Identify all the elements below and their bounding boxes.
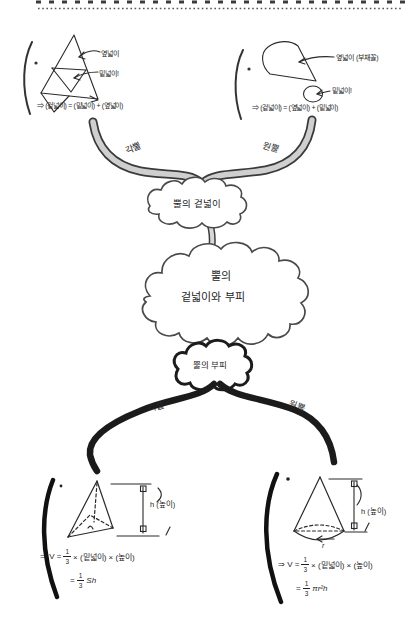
cloud-surface-label: 뿔의 겉넓이 — [173, 198, 221, 209]
pyramid-volume-formula-line2: = 13 Sh — [70, 572, 96, 590]
handwritten-mindmap-page: 옆넓이 밑넓이! 옆넓이 (부채꼴) 밑넓이! 각뿔 원뿔 뿔의 겉넓이 뿔의 … — [0, 0, 419, 625]
formula-prefix: = — [296, 584, 301, 593]
base-area-label: 밑넓이! — [99, 69, 119, 78]
lateral-area-label: 옆넓이 (부채꼴) — [336, 53, 379, 62]
bullet-dot — [60, 485, 63, 488]
left-paren-mark-bold — [44, 480, 57, 597]
lower-branches — [90, 384, 334, 471]
bullet-dot — [247, 67, 250, 70]
cone-volume-formula-line2: = 13 πr²h — [296, 580, 327, 598]
formula-text: ⇒ (겉넓이) = (밑넓이) + (옆넓이) — [37, 100, 123, 110]
left-paren-mark — [236, 50, 243, 119]
cone-volume-formula-line1: ⇒ V = 13 × (밑넓이) × (높이) — [278, 556, 373, 574]
cloud-main-label-line1: 뿔의 — [211, 270, 231, 282]
bullet-dot — [34, 61, 37, 64]
formula-prefix: = — [70, 576, 75, 585]
pyramid-volume-group: h (높이) — [44, 480, 176, 597]
formula-suffix: × (밑넓이) × (높이) — [311, 559, 373, 570]
height-label: h (높이) — [150, 499, 176, 509]
cloud-main-label-line2: 겉넓이와 부피 — [181, 291, 244, 303]
pyramid-volume-formula-line1: ⇒ V = 13 × (밑넓이) × (높이) — [40, 548, 135, 566]
height-label: h (높이) — [361, 506, 387, 516]
lower-branch-left-label: 각뿔 — [146, 398, 165, 413]
one-third-fraction: 13 — [77, 572, 85, 590]
bullet-dot — [286, 477, 290, 481]
one-third-fraction: 13 — [63, 548, 71, 566]
one-third-fraction: 13 — [301, 556, 309, 574]
upper-branch-right-label: 원뿔 — [261, 140, 279, 154]
base-area-label: 밑넓이! — [332, 86, 352, 95]
pyramid-surface-formula: ⇒ (겉넓이) = (밑넓이) + (옆넓이) — [37, 100, 123, 110]
formula-prefix: ⇒ V = — [40, 552, 61, 561]
upper-branch-left-label: 각뿔 — [124, 140, 143, 156]
left-paren-mark-bold — [266, 474, 281, 602]
left-paren-mark — [24, 42, 32, 114]
height-bracket — [111, 484, 170, 536]
formula-suffix: × (밑넓이) × (높이) — [73, 551, 135, 562]
formula-suffix: πr²h — [312, 584, 327, 593]
formula-suffix: Sh — [86, 576, 96, 585]
cone-surface-formula: ⇒ (겉넓이) = (옆넓이) + (밑넓이) — [252, 102, 338, 112]
formula-prefix: ⇒ V = — [278, 560, 299, 569]
formula-text: ⇒ (겉넓이) = (옆넓이) + (밑넓이) — [252, 102, 338, 112]
cone-net-drawing — [263, 42, 334, 102]
cone-solid-drawing — [294, 477, 344, 542]
radius-label: r — [322, 542, 325, 549]
cloud-volume-label: 뿔의 부피 — [193, 360, 227, 370]
lateral-area-label: 옆넓이 — [101, 49, 119, 58]
pyramid-solid-drawing — [68, 481, 113, 537]
height-bracket — [329, 479, 369, 532]
one-third-fraction: 13 — [303, 580, 311, 598]
mindmap-drawing: 옆넓이 밑넓이! 옆넓이 (부채꼴) 밑넓이! 각뿔 원뿔 뿔의 겉넓이 뿔의 … — [0, 0, 419, 625]
